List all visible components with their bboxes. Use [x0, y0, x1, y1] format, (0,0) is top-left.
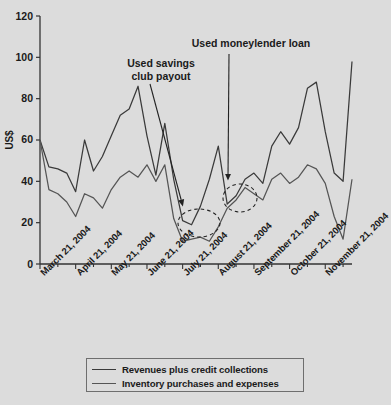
annotation-savings-club: Used savings club payout — [118, 57, 204, 82]
annotation-arrow-savings-club — [150, 84, 182, 203]
data-line-revenues — [40, 61, 352, 224]
annotation-moneylender-loan: Used moneylender loan — [186, 37, 316, 50]
legend-swatch-line — [92, 369, 116, 370]
legend-label: Revenues plus credit collections — [122, 364, 268, 375]
legend-item-revenues: Revenues plus credit collections — [92, 362, 298, 376]
annotation-savings-club-line2: club payout — [118, 70, 204, 83]
legend-swatch-line — [92, 383, 116, 384]
legend-item-inventory: Inventory purchases and expenses — [92, 376, 298, 390]
chart-legend: Revenues plus credit collections Invento… — [86, 358, 304, 392]
data-series-group — [40, 61, 352, 241]
annotation-moneylender-loan-line1: Used moneylender loan — [186, 37, 316, 50]
legend-label: Inventory purchases and expenses — [122, 378, 279, 389]
annotation-arrow-moneylender-loan — [228, 54, 229, 177]
annotation-savings-club-line1: Used savings — [118, 57, 204, 70]
